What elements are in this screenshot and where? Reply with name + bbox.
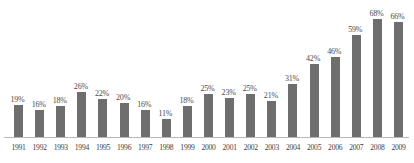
bar: [225, 98, 234, 138]
bar: [35, 110, 44, 138]
bar-group: 68%: [367, 0, 388, 138]
x-axis-tick-label: 2005: [304, 141, 325, 155]
bar-group: 23%: [219, 0, 240, 138]
x-axis-tick-label: 2009: [388, 141, 409, 155]
bar-group: 22%: [92, 0, 113, 138]
bar-value-label: 22%: [95, 89, 109, 98]
x-axis-tick-label: 2003: [261, 141, 282, 155]
bar-value-label: 66%: [390, 12, 404, 21]
bar: [183, 106, 192, 138]
bar: [56, 106, 65, 138]
x-axis-tick-label: 2002: [240, 141, 261, 155]
bar-value-label: 19%: [11, 95, 25, 104]
bar: [288, 84, 297, 138]
x-axis-tick-label: 1995: [92, 141, 113, 155]
bar: [77, 92, 86, 138]
bar-group: 16%: [135, 0, 156, 138]
bar-value-label: 11%: [158, 109, 172, 118]
bar: [373, 19, 382, 138]
bar-value-label: 26%: [74, 82, 88, 91]
bar-group: 18%: [50, 0, 71, 138]
bar-value-label: 16%: [137, 100, 151, 109]
bar-group: 42%: [304, 0, 325, 138]
bar: [204, 94, 213, 138]
bar-value-label: 18%: [179, 96, 193, 105]
x-axis-tick-label: 1996: [114, 141, 135, 155]
bar-value-label: 23%: [222, 88, 236, 97]
x-axis-tick-label: 2004: [282, 141, 303, 155]
bar: [267, 101, 276, 138]
x-axis-tick-label: 2006: [325, 141, 346, 155]
x-axis-tick-label: 1998: [156, 141, 177, 155]
bar-value-label: 42%: [306, 54, 320, 63]
bar-series: 19%16%18%26%22%20%16%11%18%25%23%25%21%3…: [8, 0, 409, 138]
x-axis-tick-label: 2001: [219, 141, 240, 155]
bar: [394, 22, 403, 138]
bar-value-label: 16%: [32, 100, 46, 109]
bar-value-label: 21%: [264, 91, 278, 100]
x-axis-tick-label: 2008: [367, 141, 388, 155]
bar: [331, 57, 340, 138]
x-axis-tick-label: 1997: [135, 141, 156, 155]
bar-value-label: 46%: [327, 47, 341, 56]
bar-value-label: 68%: [369, 9, 383, 18]
bar: [141, 110, 150, 138]
bar-group: 18%: [177, 0, 198, 138]
bar-group: 21%: [261, 0, 282, 138]
bar: [162, 119, 171, 138]
bar-value-label: 20%: [116, 93, 130, 102]
x-axis-tick-label: 2007: [346, 141, 367, 155]
x-axis-line: [4, 137, 409, 138]
x-axis-tick-label: 1991: [8, 141, 29, 155]
bar: [98, 99, 107, 138]
bar: [120, 103, 129, 138]
bar: [352, 35, 361, 138]
bar-group: 25%: [198, 0, 219, 138]
bar: [14, 105, 23, 138]
bar-value-label: 25%: [201, 84, 215, 93]
bar-group: 19%: [8, 0, 29, 138]
bar-group: 59%: [346, 0, 367, 138]
bar-value-label: 31%: [285, 74, 299, 83]
bar-value-label: 25%: [243, 84, 257, 93]
x-axis-tick-label: 1993: [50, 141, 71, 155]
bar: [246, 94, 255, 138]
x-axis-tick-label: 2000: [198, 141, 219, 155]
bar-group: 66%: [388, 0, 409, 138]
bar-group: 46%: [325, 0, 346, 138]
bar-group: 31%: [282, 0, 303, 138]
bar-group: 26%: [71, 0, 92, 138]
bar: [310, 64, 319, 138]
bar-value-label: 18%: [53, 96, 67, 105]
bar-group: 25%: [240, 0, 261, 138]
bar-group: 16%: [29, 0, 50, 138]
bar-group: 20%: [114, 0, 135, 138]
x-axis-tick-label: 1994: [71, 141, 92, 155]
x-axis-tick-label: 1999: [177, 141, 198, 155]
plot-area: 19%16%18%26%22%20%16%11%18%25%23%25%21%3…: [0, 0, 414, 138]
bar-chart: 19%16%18%26%22%20%16%11%18%25%23%25%21%3…: [0, 0, 414, 163]
bar-value-label: 59%: [348, 25, 362, 34]
x-axis-tick-labels: 1991199219931994199519961997199819992000…: [8, 141, 409, 155]
x-axis-tick-label: 1992: [29, 141, 50, 155]
bar-group: 11%: [156, 0, 177, 138]
